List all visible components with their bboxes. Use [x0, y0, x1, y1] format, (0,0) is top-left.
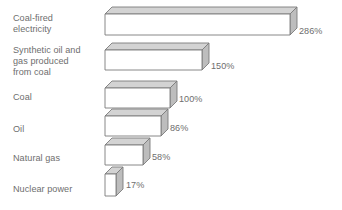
value-label: 17% — [126, 180, 144, 190]
bar-chart: Coal-fired electricity286%Synthetic oil … — [0, 0, 342, 210]
bar-shape — [0, 0, 342, 210]
bar-front-face — [105, 174, 116, 196]
